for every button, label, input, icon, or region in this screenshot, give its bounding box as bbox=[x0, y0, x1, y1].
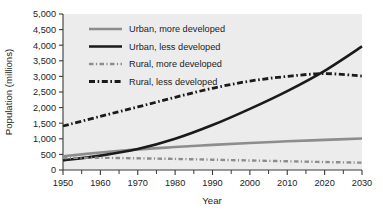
y-tick-label: 2,000 bbox=[33, 103, 56, 113]
y-tick-label: 1,000 bbox=[33, 134, 56, 144]
x-tick-label: 1980 bbox=[165, 178, 185, 188]
y-tick-label: 500 bbox=[41, 150, 56, 160]
legend-item-label: Rural, less developed bbox=[129, 77, 217, 87]
y-tick-label: 5,000 bbox=[33, 9, 56, 19]
y-axis-title: Population (millions) bbox=[3, 49, 14, 135]
y-tick-label: 4,000 bbox=[33, 41, 56, 51]
x-tick-label: 2010 bbox=[277, 178, 297, 188]
plot-area-background bbox=[63, 14, 362, 170]
x-tick-label: 1950 bbox=[53, 178, 73, 188]
y-tick-label: 1,500 bbox=[33, 119, 56, 129]
x-tick-label: 2020 bbox=[314, 178, 334, 188]
x-tick-label: 1970 bbox=[128, 178, 148, 188]
y-tick-label: 2,500 bbox=[33, 87, 56, 97]
legend-item-label: Rural, more developed bbox=[129, 59, 222, 69]
chart-canvas: 05001,0001,5002,0002,5003,0003,5004,0004… bbox=[0, 0, 383, 212]
y-tick-label: 4,500 bbox=[33, 25, 56, 35]
legend-item-label: Urban, more developed bbox=[129, 24, 225, 34]
legend-item-label: Urban, less developed bbox=[129, 42, 220, 52]
x-tick-label: 1990 bbox=[202, 178, 222, 188]
y-tick-label: 0 bbox=[51, 165, 56, 175]
x-axis-title: Year bbox=[202, 195, 222, 206]
x-tick-label: 2030 bbox=[352, 178, 372, 188]
x-tick-label: 1960 bbox=[90, 178, 110, 188]
x-axis-ticks: 195019601970198019902000201020202030 bbox=[53, 170, 372, 188]
y-tick-label: 3,500 bbox=[33, 56, 56, 66]
y-tick-label: 3,000 bbox=[33, 72, 56, 82]
population-line-chart: 05001,0001,5002,0002,5003,0003,5004,0004… bbox=[0, 0, 383, 212]
x-tick-label: 2000 bbox=[240, 178, 260, 188]
